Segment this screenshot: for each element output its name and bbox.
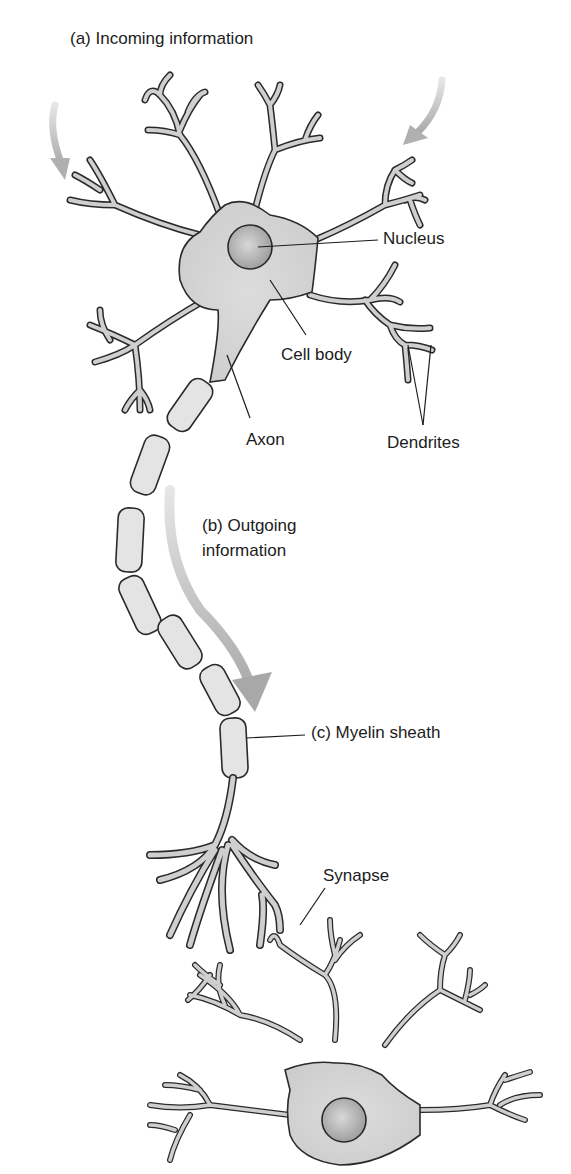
myelin-sheath-label: (c) Myelin sheath [311,723,440,743]
outgoing-information-label-line2: information [202,541,286,561]
dendrites-label: Dendrites [387,433,460,453]
axon-label: Axon [246,430,285,450]
incoming-information-title: (a) Incoming information [70,29,253,49]
neuron-diagram [0,0,571,1174]
cell-body-label: Cell body [281,345,352,365]
lower-nucleus [322,1098,366,1142]
incoming-arrow-left-icon [50,105,70,180]
nucleus-label: Nucleus [383,229,444,249]
synapse-label: Synapse [323,866,389,886]
incoming-arrow-right-icon [403,80,442,145]
outgoing-information-label-line1: (b) Outgoing [202,516,297,536]
axon-terminals [150,778,280,950]
